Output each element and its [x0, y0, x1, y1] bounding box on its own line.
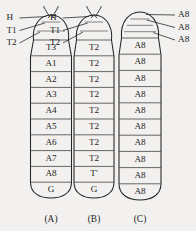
leader-label-C-3: A8 [178, 34, 190, 44]
segment-label-A-8: A7 [45, 153, 57, 163]
leader-line-C-2 [147, 20, 175, 28]
segments-C: A8A8A8A8A8A8A8A8A8A8 [119, 38, 161, 196]
leader-label-A-1: H [7, 12, 14, 22]
segment-label-C-2: A8 [134, 56, 146, 66]
leaders-A: HT1T2 [7, 12, 47, 47]
segment-label-B-5: T2 [89, 105, 100, 115]
segment-label-A-10: G [48, 184, 55, 194]
panel-A: T3A1A2A3A4A5A6A7A8GHT1T2(A) [7, 7, 72, 226]
leader-label-A-3: T2 [7, 37, 18, 47]
leader-label-B-3: T2 [50, 37, 61, 47]
antenna-left-B [87, 7, 93, 17]
leader-label-B-1: H [50, 12, 57, 22]
segment-label-C-4: A8 [134, 89, 146, 99]
segment-label-A-3: A2 [45, 74, 57, 84]
segment-label-B-2: T2 [89, 58, 100, 68]
panel-C: A8A8A8A8A8A8A8A8A8A8A8A8A8(C) [119, 9, 190, 225]
segment-label-B-3: T2 [89, 74, 100, 84]
segments-A: T3A1A2A3A4A5A6A7A8G [31, 40, 72, 194]
panel-caption-A: (A) [44, 214, 57, 225]
leaders-C: A8A8A8 [146, 9, 190, 44]
segmentation-diagram: T3A1A2A3A4A5A6A7A8GHT1T2(A)T2T2T2T2T2T2T… [0, 0, 196, 231]
segment-label-C-10: A8 [134, 186, 146, 196]
panel-B: T2T2T2T2T2T2T2T2T'GHT1T2(B) [50, 7, 114, 226]
segment-label-A-9: A8 [45, 168, 57, 178]
antenna-left-A [44, 7, 50, 17]
segment-label-B-4: T2 [89, 89, 100, 99]
segment-label-A-6: A5 [45, 121, 57, 131]
segment-label-B-10: G [91, 184, 98, 194]
segment-label-C-3: A8 [134, 73, 146, 83]
segment-label-A-5: A4 [45, 105, 57, 115]
segment-label-A-2: A1 [45, 58, 57, 68]
panel-caption-C: (C) [134, 214, 147, 225]
segment-label-C-7: A8 [134, 137, 146, 147]
leader-label-C-1: A8 [178, 9, 190, 19]
segment-label-C-6: A8 [134, 121, 146, 131]
leader-label-A-2: T1 [7, 25, 18, 35]
leader-line-C-3 [153, 33, 175, 40]
segment-label-B-7: T2 [89, 137, 100, 147]
segment-label-C-8: A8 [134, 154, 146, 164]
segment-label-C-9: A8 [134, 170, 146, 180]
leader-line-A-3 [20, 32, 41, 43]
segment-label-A-7: A6 [45, 137, 57, 147]
leader-label-B-2: T1 [50, 25, 61, 35]
segment-label-B-8: T2 [89, 153, 100, 163]
figure-container: T3A1A2A3A4A5A6A7A8GHT1T2(A)T2T2T2T2T2T2T… [0, 0, 196, 231]
segment-label-B-6: T2 [89, 121, 100, 131]
segments-B: T2T2T2T2T2T2T2T2T'G [74, 40, 114, 194]
segment-label-B-1: T2 [89, 42, 100, 52]
segment-label-B-9: T' [90, 168, 98, 178]
leader-line-B-3 [63, 32, 83, 43]
segment-label-A-4: A3 [45, 89, 57, 99]
panel-caption-B: (B) [88, 214, 101, 225]
antenna-right-B [96, 7, 102, 17]
segment-label-C-5: A8 [134, 105, 146, 115]
leaders-B: HT1T2 [50, 12, 89, 47]
leader-line-A-2 [20, 23, 45, 31]
segment-label-C-1: A8 [134, 40, 146, 50]
head-bands-B [80, 22, 108, 31]
leader-line-C-1 [146, 15, 175, 16]
leader-label-C-2: A8 [178, 22, 190, 32]
